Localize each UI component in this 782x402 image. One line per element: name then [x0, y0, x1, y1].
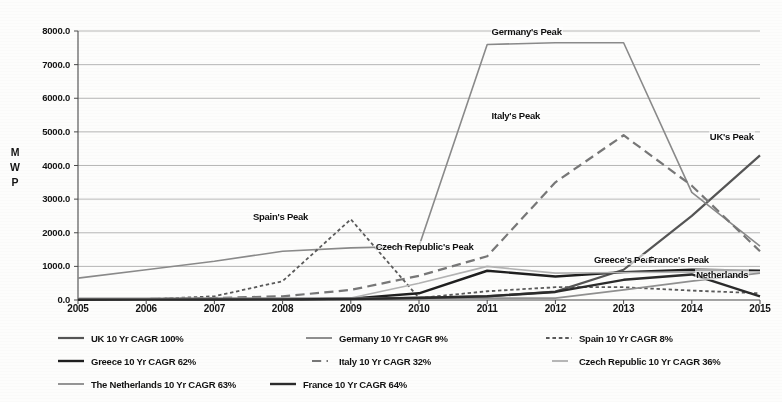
legend-label: The Netherlands 10 Yr CAGR 63% — [91, 379, 236, 390]
legend-label: Spain 10 Yr CAGR 8% — [579, 333, 673, 344]
chart-legend: UK 10 Yr CAGR 100%Germany 10 Yr CAGR 9%S… — [58, 331, 770, 397]
x-tick-label: 2011 — [457, 303, 517, 314]
legend-item-czech-republic[interactable]: Czech Republic 10 Yr CAGR 36% — [546, 354, 720, 368]
x-tick-label: 2006 — [116, 303, 176, 314]
legend-label: UK 10 Yr CAGR 100% — [91, 333, 183, 344]
legend-label: Greece 10 Yr CAGR 62% — [91, 356, 196, 367]
legend-item-germany[interactable]: Germany 10 Yr CAGR 9% — [306, 331, 448, 345]
legend-item-the-netherlands[interactable]: The Netherlands 10 Yr CAGR 63% — [58, 377, 236, 391]
annotation-germanys-peak: Germany's Peak — [491, 26, 563, 37]
series-line-italy — [78, 135, 760, 299]
legend-swatch-icon — [546, 356, 572, 366]
x-tick-label: 2007 — [184, 303, 244, 314]
x-tick-label: 2010 — [389, 303, 449, 314]
legend-swatch-icon — [306, 356, 332, 366]
legend-label: Germany 10 Yr CAGR 9% — [339, 333, 448, 344]
x-tick-label: 2005 — [48, 303, 108, 314]
x-tick-label: 2014 — [662, 303, 722, 314]
legend-swatch-icon — [58, 379, 84, 389]
legend-swatch-icon — [58, 356, 84, 366]
x-tick-label: 2015 — [730, 303, 782, 314]
annotation-czech-republics-peak: Czech Republic's Peak — [375, 241, 475, 252]
x-tick-label: 2008 — [253, 303, 313, 314]
legend-item-spain[interactable]: Spain 10 Yr CAGR 8% — [546, 331, 673, 345]
annotation-italys-peak: Italy's Peak — [491, 110, 541, 121]
grid-lines — [78, 31, 760, 266]
x-tick-label: 2013 — [594, 303, 654, 314]
annotation-uks-peak: UK's Peak — [709, 131, 755, 142]
legend-item-italy[interactable]: Italy 10 Yr CAGR 32% — [306, 354, 431, 368]
annotation-spains-peak: Spain's Peak — [252, 211, 309, 222]
legend-item-france[interactable]: France 10 Yr CAGR 64% — [270, 377, 407, 391]
x-tick-label: 2012 — [525, 303, 585, 314]
legend-item-greece[interactable]: Greece 10 Yr CAGR 62% — [58, 354, 196, 368]
legend-label: France 10 Yr CAGR 64% — [303, 379, 407, 390]
legend-swatch-icon — [270, 379, 296, 389]
series-line-france — [78, 274, 760, 299]
legend-label: Czech Republic 10 Yr CAGR 36% — [579, 356, 720, 367]
annotation-netherlands: Netherlands — [695, 269, 749, 280]
chart-container: M W P 8000.0 7000.0 6000.0 5000.0 4000.0… — [0, 0, 782, 402]
legend-swatch-icon — [306, 333, 332, 343]
legend-swatch-icon — [546, 333, 572, 343]
legend-label: Italy 10 Yr CAGR 32% — [339, 356, 431, 367]
legend-swatch-icon — [58, 333, 84, 343]
x-tick-label: 2009 — [321, 303, 381, 314]
legend-item-uk[interactable]: UK 10 Yr CAGR 100% — [58, 331, 183, 345]
annotation-frances-peak: France's Peak — [647, 254, 709, 265]
